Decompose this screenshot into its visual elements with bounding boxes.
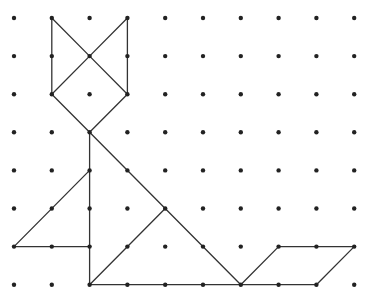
- grid-dot: [50, 54, 54, 58]
- grid-dot: [276, 130, 280, 134]
- grid-dot: [239, 283, 243, 287]
- grid-dot: [87, 92, 91, 96]
- grid-dot: [87, 168, 91, 172]
- grid-dot: [201, 168, 205, 172]
- grid-dot: [125, 130, 129, 134]
- head-upper-left-segment: [52, 56, 90, 94]
- grid-dot: [12, 206, 16, 210]
- grid-dot: [12, 92, 16, 96]
- grid-dot: [352, 283, 356, 287]
- grid-dot: [352, 168, 356, 172]
- grid-dot: [201, 283, 205, 287]
- grid-dot: [12, 130, 16, 134]
- grid-dot: [12, 283, 16, 287]
- grid-dot: [125, 92, 129, 96]
- grid-dot: [352, 16, 356, 20]
- grid-dot: [314, 16, 318, 20]
- grid-dot: [87, 206, 91, 210]
- grid-dot: [314, 283, 318, 287]
- grid-dot: [201, 130, 205, 134]
- grid-dot: [125, 283, 129, 287]
- grid-dot: [12, 54, 16, 58]
- grid-dot: [163, 54, 167, 58]
- dot-grid-diagram: [0, 0, 375, 300]
- grid-dot: [276, 168, 280, 172]
- grid-dot: [276, 244, 280, 248]
- grid-dot: [125, 54, 129, 58]
- grid-dot: [163, 130, 167, 134]
- grid-dot: [314, 130, 318, 134]
- grid-dot: [352, 206, 356, 210]
- head-lower-right-segment: [90, 94, 128, 132]
- grid-dot: [201, 206, 205, 210]
- grid-dot: [239, 168, 243, 172]
- grid-dot: [50, 92, 54, 96]
- grid-dot: [125, 206, 129, 210]
- grid-dot: [12, 16, 16, 20]
- grid-dot: [239, 130, 243, 134]
- grid-dot: [125, 244, 129, 248]
- grid-dot: [201, 244, 205, 248]
- grid-dot: [352, 92, 356, 96]
- grid-dot: [87, 283, 91, 287]
- grid-dot: [87, 16, 91, 20]
- grid-dot: [50, 244, 54, 248]
- grid-dot: [50, 283, 54, 287]
- grid-dot: [12, 244, 16, 248]
- grid-dot: [239, 16, 243, 20]
- grid-dot: [50, 206, 54, 210]
- grid-dot: [201, 92, 205, 96]
- grid-dot: [50, 168, 54, 172]
- grid-dot: [201, 54, 205, 58]
- grid-dot: [163, 168, 167, 172]
- figure-segments: [14, 18, 354, 285]
- grid-dot: [276, 206, 280, 210]
- grid-dot: [239, 92, 243, 96]
- grid-dot: [352, 130, 356, 134]
- grid-dot: [276, 283, 280, 287]
- grid-dot: [50, 130, 54, 134]
- tail-right-segment: [316, 247, 354, 285]
- grid-dot: [163, 206, 167, 210]
- grid-dot: [314, 54, 318, 58]
- grid-dot: [276, 92, 280, 96]
- grid-dot: [276, 16, 280, 20]
- grid-dot: [163, 283, 167, 287]
- grid-dot: [239, 54, 243, 58]
- grid-dot: [125, 168, 129, 172]
- grid-dot: [352, 244, 356, 248]
- tail-left-segment: [241, 247, 279, 285]
- grid-dot: [125, 16, 129, 20]
- grid-dot: [87, 244, 91, 248]
- grid-dot: [12, 168, 16, 172]
- grid-dot: [239, 244, 243, 248]
- grid-dot: [201, 16, 205, 20]
- grid-dot: [314, 168, 318, 172]
- grid-dot: [87, 54, 91, 58]
- grid-dot: [239, 206, 243, 210]
- grid-dot: [314, 244, 318, 248]
- left-ear-inner-segment: [52, 18, 90, 56]
- grid-dot: [276, 54, 280, 58]
- grid-dot: [314, 206, 318, 210]
- grid-dot: [163, 244, 167, 248]
- grid-dot: [314, 92, 318, 96]
- grid-dot: [50, 16, 54, 20]
- grid-dot: [163, 16, 167, 20]
- grid-dot: [87, 130, 91, 134]
- right-ear-inner-segment: [90, 18, 128, 56]
- grid-dot: [163, 92, 167, 96]
- head-upper-right-segment: [90, 56, 128, 94]
- head-lower-left-segment: [52, 94, 90, 132]
- grid-dot: [352, 54, 356, 58]
